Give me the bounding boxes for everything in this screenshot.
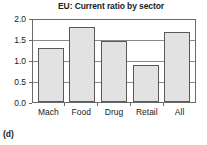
x-tick-mark-1 <box>64 103 65 106</box>
x-tick-label-mach: Mach <box>32 107 64 117</box>
y-tick-label-1point5: 1.5 <box>0 36 26 45</box>
bar-all[interactable] <box>164 32 190 102</box>
x-tick-label-all: All <box>164 107 196 117</box>
plot-area <box>32 19 196 103</box>
y-tick-label-0point5: 0.5 <box>0 78 26 87</box>
panel-caption: (d) <box>3 129 14 139</box>
x-tick-label-food: Food <box>65 107 97 117</box>
x-tick-mark-4 <box>163 103 164 106</box>
x-tick-label-retail: Retail <box>131 107 163 117</box>
bar-group <box>33 20 195 102</box>
y-tick-label-1: 1.0 <box>0 57 26 66</box>
y-tick-label-2: 2.0 <box>0 15 26 24</box>
bar-retail[interactable] <box>133 65 159 102</box>
x-tick-label-drug: Drug <box>98 107 130 117</box>
x-tick-mark-3 <box>130 103 131 106</box>
bar-mach[interactable] <box>38 48 64 102</box>
y-tick-label-0: 0.0 <box>0 99 26 108</box>
bar-drug[interactable] <box>101 41 127 102</box>
bar-food[interactable] <box>69 27 95 102</box>
x-tick-mark-2 <box>97 103 98 106</box>
figure-panel: EU: Current ratio by sector 2.0 1.5 1.0 … <box>0 0 207 145</box>
chart-title: EU: Current ratio by sector <box>22 1 200 11</box>
y-tick-mark-0 <box>29 103 32 104</box>
x-axis-labels: Mach Food Drug Retail All <box>32 107 196 119</box>
